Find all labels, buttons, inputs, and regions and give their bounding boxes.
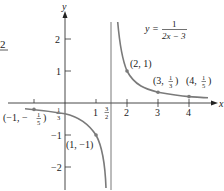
equation-lhs: y = (144, 23, 159, 34)
point-2 (125, 69, 129, 73)
y-tick-minus-1: −1 (51, 130, 62, 141)
label-point-4-den: 5 (202, 82, 205, 89)
label-point-4-b: ) (208, 75, 211, 87)
point-1 (94, 133, 98, 137)
label-point-4-a: (4, (186, 75, 197, 87)
label-point-minus1-den: 5 (37, 119, 40, 126)
x-tick-3-2-num: 3 (105, 105, 108, 112)
y-tick-2: 2 (55, 34, 60, 45)
x-tick-3-2-den: 2 (105, 113, 108, 120)
y-axis-arrow-icon (63, 11, 68, 18)
x-tick-3: 3 (155, 107, 160, 118)
margin-fragment-text: 2 (0, 38, 6, 50)
y-tick-1: 1 (56, 66, 61, 77)
point-3 (156, 91, 160, 95)
y-tick-minus-2: −2 (51, 162, 62, 173)
equation-denominator: 2x − 3 (162, 31, 186, 41)
point-minus1 (32, 108, 36, 112)
label-point-1-minus1: (1, −1) (66, 139, 93, 151)
x-tick-2: 2 (124, 107, 129, 118)
label-point-3-a: (3, (153, 75, 164, 87)
x-axis-arrow-icon (211, 101, 218, 106)
graph: 2 x y 1 3 2 2 3 4 2 1 −1 −2 1 3 (0, 0, 224, 191)
label-point-4-num: 1 (202, 74, 205, 81)
x-axis-label: x (218, 98, 224, 109)
equation-numerator: 1 (172, 19, 177, 29)
y-intercept-den: 3 (57, 114, 60, 121)
label-point-minus1-a: (−1, − (3, 112, 28, 124)
label-point-3-b: ) (175, 75, 178, 87)
point-4 (187, 95, 191, 99)
label-point-minus1-b: ) (43, 112, 46, 124)
y-axis-label: y (61, 1, 67, 12)
label-point-3-num: 1 (169, 74, 172, 81)
label-point-2-1: (2, 1) (130, 58, 152, 70)
label-point-minus1-num: 1 (37, 111, 40, 118)
x-tick-4: 4 (186, 107, 191, 118)
label-point-3-den: 3 (169, 82, 172, 89)
x-tick-1: 1 (93, 107, 98, 118)
